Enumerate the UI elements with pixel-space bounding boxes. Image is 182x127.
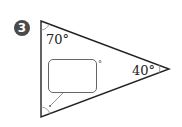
angle-arc-bottom (41, 107, 50, 114)
degree-unit: ° (98, 59, 102, 68)
angle-arc-top (41, 24, 49, 30)
answer-input-box[interactable] (48, 59, 97, 93)
problem-number-badge: 3 (14, 20, 30, 36)
angle-arc-right (159, 65, 160, 73)
angle-label-40: 40° (132, 64, 155, 77)
leader-line (50, 92, 64, 106)
angle-label-70: 70° (46, 33, 69, 46)
